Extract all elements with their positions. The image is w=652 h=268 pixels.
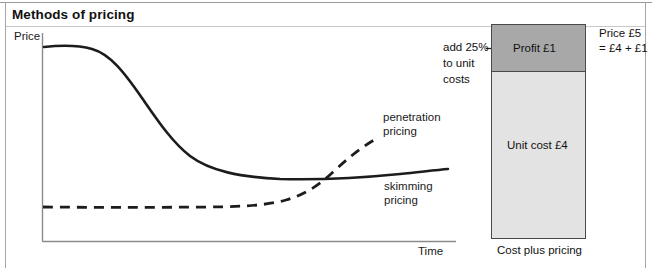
profit-segment-label: Profit £1 — [513, 41, 556, 55]
cost-plus-caption: Cost plus pricing — [497, 243, 582, 257]
y-axis-label: Price — [14, 30, 40, 42]
unit-cost-segment-label: Unit cost £4 — [507, 138, 568, 152]
markup-note: add 25% to unit costs — [443, 39, 488, 87]
x-axis-label: Time — [418, 245, 443, 257]
price-note-line1: Price £5 — [599, 26, 648, 41]
skimming-pricing-label: skimming pricing — [384, 180, 433, 207]
penetration-pricing-label-line2: pricing — [383, 125, 441, 139]
penetration-pricing-label-line1: penetration — [383, 111, 441, 125]
penetration-pricing-label: penetration pricing — [383, 111, 441, 138]
price-note: Price £5 = £4 + £1 — [599, 26, 648, 56]
methods-of-pricing-figure: Methods of pricing Price Time penetratio… — [0, 0, 652, 268]
skimming-pricing-label-line1: skimming — [384, 180, 433, 194]
markup-note-line2: to unit — [443, 55, 488, 71]
penetration-pricing-curve — [43, 140, 374, 207]
price-note-line2: = £4 + £1 — [599, 41, 648, 56]
skimming-pricing-label-line2: pricing — [384, 194, 433, 208]
markup-note-line1: add 25% — [443, 39, 488, 55]
markup-note-line3: costs — [443, 71, 488, 87]
